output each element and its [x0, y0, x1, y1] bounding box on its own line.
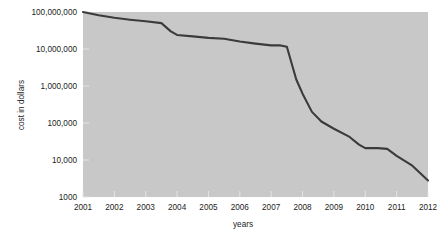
- x-axis-tick-label: 2010: [356, 203, 375, 212]
- x-axis-tick-label: 2012: [419, 203, 438, 212]
- x-axis-tick-labels: 2001200220032004200520062007200820092010…: [74, 203, 438, 212]
- plot-background: [83, 12, 428, 197]
- x-axis-tick-label: 2011: [388, 203, 406, 212]
- cost-per-genome-chart: 100,000,00010,000,0001,000,000100,00010,…: [0, 0, 445, 241]
- x-axis-title: years: [233, 220, 253, 229]
- y-axis-title: cost in dollars: [17, 80, 26, 130]
- x-axis-tick-label: 2004: [168, 203, 187, 212]
- x-axis-tick-label: 2005: [199, 203, 218, 212]
- x-axis-tick-label: 2002: [105, 203, 124, 212]
- x-axis-tick-label: 2001: [74, 203, 93, 212]
- y-axis-tick-label: 10,000: [52, 156, 77, 165]
- x-axis-tick-label: 2006: [231, 203, 250, 212]
- y-axis-tick-label: 100,000,000: [31, 8, 77, 17]
- y-axis-tick-label: 1000: [59, 193, 78, 202]
- y-axis-tick-label: 10,000,000: [36, 45, 77, 54]
- chart-canvas: 100,000,00010,000,0001,000,000100,00010,…: [0, 0, 445, 241]
- y-axis-tick-label: 100,000: [47, 119, 77, 128]
- x-axis-tick-label: 2009: [325, 203, 344, 212]
- y-axis-tick-labels: 100,000,00010,000,0001,000,000100,00010,…: [31, 8, 77, 202]
- y-axis-tick-label: 1,000,000: [41, 82, 78, 91]
- x-axis-tick-label: 2003: [137, 203, 156, 212]
- x-axis-tick-label: 2008: [293, 203, 312, 212]
- x-axis-tick-label: 2007: [262, 203, 281, 212]
